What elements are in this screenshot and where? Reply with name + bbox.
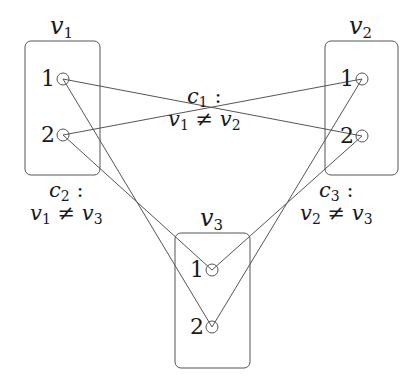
value-label-v1-1: 1 bbox=[41, 68, 55, 90]
variable-box-v2 bbox=[325, 41, 398, 175]
variable-label-v3: v3 bbox=[200, 206, 223, 233]
variable-box-v3 bbox=[175, 233, 250, 368]
constraint-label-c3: c3 : v2 ≠ v3 bbox=[300, 180, 373, 226]
value-label-v2-1: 1 bbox=[340, 68, 354, 90]
value-label-v3-2: 2 bbox=[190, 316, 204, 338]
value-label-v3-1: 1 bbox=[190, 259, 204, 281]
variable-label-v2: v2 bbox=[349, 14, 372, 41]
variable-label-v1: v1 bbox=[50, 14, 73, 41]
value-label-v2-2: 2 bbox=[340, 125, 354, 147]
constraint-label-c1: c1 : v1 ≠ v2 bbox=[168, 86, 241, 132]
variable-box-v1 bbox=[25, 41, 100, 175]
value-label-v1-2: 2 bbox=[41, 124, 55, 146]
constraint-label-c2: c2 : v1 ≠ v3 bbox=[30, 180, 103, 226]
